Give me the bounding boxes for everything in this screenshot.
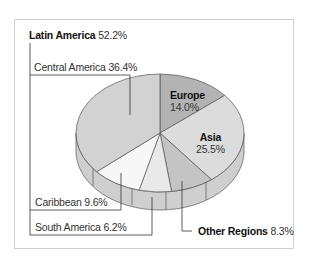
label-central-america: Central America 36.4% [34, 61, 137, 73]
label-caribbean: Caribbean 9.6% [35, 196, 108, 208]
label-europe: Europe14.0% [170, 89, 205, 113]
label-asia: Asia25.5% [196, 131, 225, 155]
label-latin-america: Latin America 52.2% [29, 29, 127, 41]
label-south-america: South America 6.2% [35, 221, 127, 233]
label-other-regions: Other Regions 8.3% [198, 225, 294, 237]
